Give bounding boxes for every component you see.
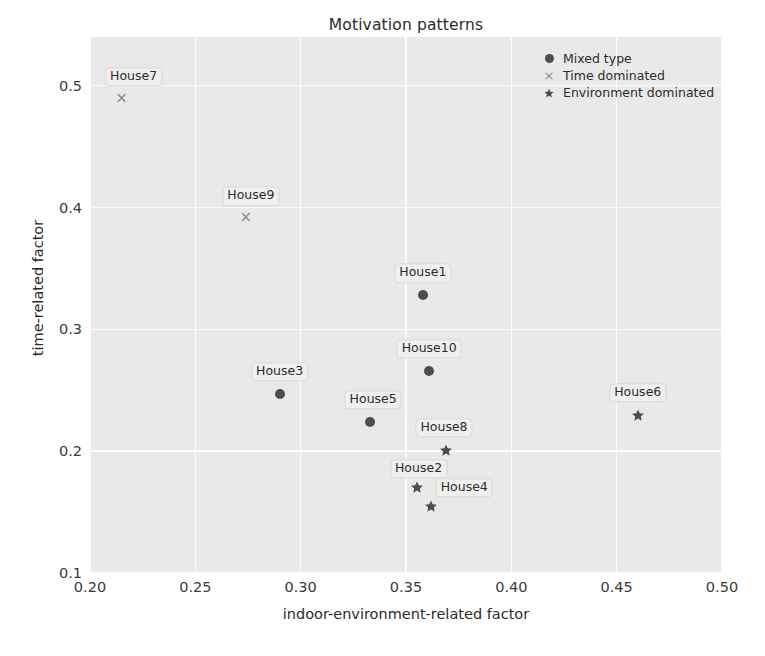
legend-label: Time dominated	[563, 68, 665, 83]
point-label-house6: House6	[609, 383, 666, 402]
data-point-house6[interactable]	[631, 408, 644, 421]
point-label-house9: House9	[222, 187, 279, 206]
x-tick-label: 0.25	[179, 579, 211, 595]
chart-title: Motivation patterns	[90, 16, 722, 34]
y-tick-label: 0.1	[38, 565, 82, 581]
gridline-vertical	[405, 37, 406, 573]
gridline-vertical	[721, 37, 722, 573]
data-point-house7[interactable]: ×	[115, 91, 128, 104]
plot-area: House1House10House3House5×House7×House9H…	[90, 37, 722, 573]
point-label-house8: House8	[415, 418, 472, 437]
legend-label: Environment dominated	[563, 85, 714, 100]
point-label-house1: House1	[394, 264, 451, 283]
data-point-house9[interactable]: ×	[239, 211, 252, 224]
gridline-horizontal	[90, 329, 722, 330]
point-label-house4: House4	[436, 478, 493, 497]
point-label-house5: House5	[345, 390, 402, 409]
x-tick-label: 0.20	[74, 579, 106, 595]
data-point-house5[interactable]	[365, 417, 375, 427]
x-tick-label: 0.50	[706, 579, 738, 595]
star-icon	[540, 88, 558, 98]
gridline-horizontal	[90, 207, 722, 208]
scatter-plot-figure: Motivation patterns House1House10House3H…	[0, 0, 765, 656]
gridline-horizontal	[90, 572, 722, 573]
gridline-vertical	[90, 37, 91, 573]
gridline-vertical	[300, 37, 301, 573]
x-tick-label: 0.40	[495, 579, 527, 595]
y-tick-label: 0.3	[38, 321, 82, 337]
data-point-house2[interactable]	[410, 480, 423, 493]
cross-icon: ×	[540, 69, 558, 82]
data-point-house10[interactable]	[424, 366, 434, 376]
legend-item-environment-dominated[interactable]: Environment dominated	[540, 84, 714, 101]
point-label-house2: House2	[390, 459, 447, 478]
x-tick-label: 0.30	[285, 579, 317, 595]
data-point-house1[interactable]	[418, 290, 428, 300]
data-point-house4[interactable]	[425, 500, 438, 513]
y-tick-label: 0.2	[38, 443, 82, 459]
point-label-house10: House10	[397, 339, 462, 358]
x-axis-label: indoor-environment-related factor	[90, 606, 722, 622]
point-label-house7: House7	[105, 67, 162, 86]
gridline-vertical	[616, 37, 617, 573]
circle-icon	[540, 54, 558, 63]
legend-item-mixed-type[interactable]: Mixed type	[540, 50, 714, 67]
point-label-house3: House3	[251, 362, 308, 381]
gridline-horizontal	[90, 450, 722, 451]
x-tick-label: 0.35	[390, 579, 422, 595]
legend-label: Mixed type	[563, 51, 632, 66]
y-tick-label: 0.4	[38, 200, 82, 216]
legend: Mixed type×Time dominatedEnvironment dom…	[540, 50, 714, 101]
y-tick-label: 0.5	[38, 78, 82, 94]
gridline-vertical	[511, 37, 512, 573]
legend-item-time-dominated[interactable]: ×Time dominated	[540, 67, 714, 84]
x-tick-label: 0.45	[601, 579, 633, 595]
data-point-house3[interactable]	[275, 389, 285, 399]
gridline-vertical	[195, 37, 196, 573]
